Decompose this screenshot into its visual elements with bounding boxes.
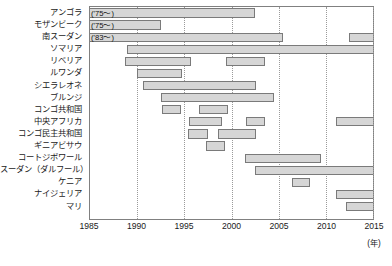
- x-tick-label: 2000: [222, 221, 241, 231]
- category-label: 中央アフリカ: [0, 115, 86, 127]
- conflict-bar: [218, 129, 256, 138]
- category-label: コンゴ共和国: [0, 103, 86, 115]
- bar-row: [90, 80, 373, 92]
- conflict-bar: [189, 117, 222, 126]
- bar-start-note: ('75〜): [91, 21, 114, 31]
- conflict-bar: [199, 105, 227, 114]
- bar-row: [90, 67, 373, 79]
- conflict-bar: [188, 129, 208, 138]
- category-label: コートジボワール: [0, 151, 86, 163]
- conflict-bar: [346, 202, 373, 211]
- bar-row: [90, 140, 373, 152]
- bar-row: ('83〜): [90, 31, 373, 43]
- conflict-bar: ('75〜): [90, 20, 161, 29]
- category-label: モザンビーク: [0, 18, 86, 30]
- conflict-bar: ('83〜): [90, 33, 283, 42]
- conflict-bar: [137, 69, 182, 78]
- africa-conflict-timeline-chart: アンゴラモザンビーク南スーダンソマリアリベリアルワンダシエラレオネブルンジコンゴ…: [0, 0, 392, 266]
- category-label: マリ: [0, 200, 86, 212]
- conflict-bar: [336, 117, 373, 126]
- x-tick-label: 1990: [127, 221, 146, 231]
- category-label: リベリア: [0, 54, 86, 66]
- category-label: コンゴ民主共和国: [0, 127, 86, 139]
- conflict-bar: [162, 105, 181, 114]
- conflict-bar: [125, 57, 191, 66]
- category-label: アンゴラ: [0, 6, 86, 18]
- category-label: ギニアビサウ: [0, 139, 86, 151]
- category-label: ルワンダ: [0, 66, 86, 78]
- category-label: ナイジェリア: [0, 187, 86, 199]
- bar-row: [90, 55, 373, 67]
- x-tick-label: 2010: [317, 221, 336, 231]
- x-axis-tick-labels: 1985199019952000200520102015: [89, 221, 374, 235]
- category-label: 南スーダン: [0, 30, 86, 42]
- bar-rows: ('75〜)('75〜)('83〜): [90, 7, 373, 213]
- bar-row: [90, 201, 373, 213]
- category-label: スーダン（ダルフール）: [0, 163, 86, 175]
- plot-area: ('75〜)('75〜)('83〜): [89, 6, 374, 220]
- bar-row: [90, 116, 373, 128]
- category-label: ブルンジ: [0, 91, 86, 103]
- conflict-bar: [255, 166, 373, 175]
- bar-row: [90, 176, 373, 188]
- conflict-bar: [127, 45, 373, 54]
- gridline-2015: [373, 7, 374, 219]
- conflict-bar: [245, 154, 321, 163]
- category-axis-labels: アンゴラモザンビーク南スーダンソマリアリベリアルワンダシエラレオネブルンジコンゴ…: [0, 6, 86, 212]
- x-axis-unit-label: (年): [367, 236, 380, 248]
- category-label: ケニア: [0, 175, 86, 187]
- bar-row: [90, 92, 373, 104]
- conflict-bar: ('75〜): [90, 8, 255, 17]
- bar-row: [90, 128, 373, 140]
- conflict-bar: [206, 141, 225, 150]
- x-tick-label: 1995: [174, 221, 193, 231]
- bar-row: [90, 152, 373, 164]
- bar-row: [90, 164, 373, 176]
- x-tick-label: 2015: [364, 221, 383, 231]
- conflict-bar: [161, 93, 274, 102]
- conflict-bar: [336, 190, 373, 199]
- conflict-bar: [246, 117, 266, 126]
- conflict-bar: [349, 33, 373, 42]
- bar-row: [90, 104, 373, 116]
- bar-start-note: ('75〜): [91, 9, 114, 19]
- bar-row: ('75〜): [90, 19, 373, 31]
- conflict-bar: [226, 57, 265, 66]
- bar-row: ('75〜): [90, 7, 373, 19]
- conflict-bar: [143, 81, 256, 90]
- category-label: ソマリア: [0, 42, 86, 54]
- x-tick-label: 1985: [79, 221, 98, 231]
- bar-row: [90, 43, 373, 55]
- bar-start-note: ('83〜): [91, 33, 114, 43]
- bar-row: [90, 188, 373, 200]
- x-tick-label: 2005: [269, 221, 288, 231]
- conflict-bar: [292, 178, 310, 187]
- category-label: シエラレオネ: [0, 79, 86, 91]
